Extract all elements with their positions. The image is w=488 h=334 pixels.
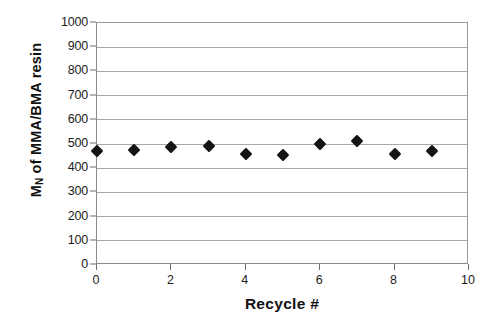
y-tick-label-500: 500 [68,136,88,150]
x-tick-mark-2 [170,264,171,270]
data-point [277,149,290,162]
y-axis-title: MN of MMA/BMA resin [28,0,58,250]
x-axis-title: Recycle # [96,295,468,313]
y-tick-label-300: 300 [68,184,88,198]
y-tick-label-800: 800 [68,63,88,77]
gridline-y-200 [97,216,467,217]
data-point [314,138,327,151]
data-point [202,140,215,153]
x-tick-label-10: 10 [461,273,475,287]
x-tick-mark-6 [319,264,320,270]
x-tick-mark-0 [96,264,97,270]
x-tick-label-4: 4 [241,273,248,287]
y-tick-label-200: 200 [68,209,88,223]
data-point [351,135,364,148]
gridline-y-300 [97,192,467,193]
x-tick-mark-4 [245,264,246,270]
data-point [128,144,141,157]
x-tick-label-8: 8 [390,273,397,287]
chart-figure: 01002003004005006007008009001000 MN of M… [0,0,488,334]
y-tick-label-900: 900 [68,39,88,53]
gridline-y-700 [97,95,467,96]
x-tick-mark-8 [394,264,395,270]
gridline-y-100 [97,240,467,241]
data-point [239,148,252,161]
x-tick-label-6: 6 [316,273,323,287]
gridline-y-500 [97,144,467,145]
data-point [388,148,401,161]
plot-area [96,22,468,264]
gridline-y-600 [97,119,467,120]
y-tick-label-100: 100 [68,233,88,247]
y-tick-label-600: 600 [68,112,88,126]
gridline-y-400 [97,168,467,169]
gridline-y-800 [97,71,467,72]
gridline-y-900 [97,47,467,48]
y-tick-label-400: 400 [68,160,88,174]
data-point [425,145,438,158]
x-tick-mark-10 [468,264,469,270]
x-tick-label-2: 2 [167,273,174,287]
y-tick-label-700: 700 [68,88,88,102]
x-tick-label-0: 0 [93,273,100,287]
y-tick-label-0: 0 [81,257,88,271]
y-tick-label-1000: 1000 [61,15,88,29]
